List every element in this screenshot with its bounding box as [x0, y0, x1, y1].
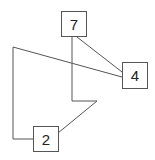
node-4: 4 [122, 62, 148, 89]
node-4-label: 4 [131, 67, 139, 84]
node-7: 7 [61, 11, 87, 37]
node-7-label: 7 [70, 16, 78, 33]
edge-7-2 [58, 37, 97, 133]
node-2: 2 [33, 126, 59, 152]
node-2-label: 2 [42, 131, 50, 148]
